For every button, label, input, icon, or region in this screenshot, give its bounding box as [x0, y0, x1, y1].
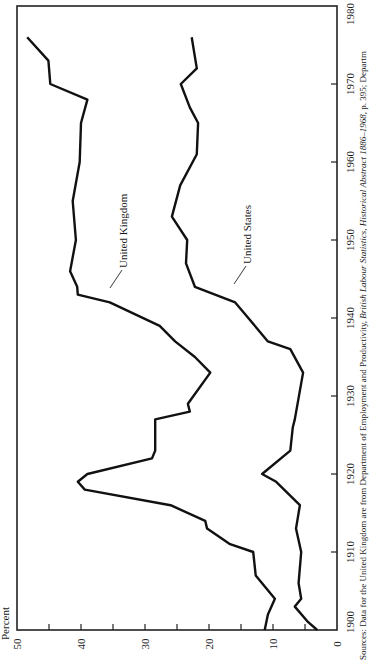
year-tick-label: 1910 — [344, 541, 356, 564]
year-tick-label: 1900 — [344, 611, 356, 634]
svg-text:United Kingdom: United Kingdom — [117, 193, 129, 268]
percent-axis-label: Percent — [0, 607, 11, 640]
year-tick-label: 1980 — [344, 3, 356, 26]
percent-tick-label: 20 — [203, 638, 215, 650]
label-united-states: United States — [234, 205, 253, 284]
plot-frame — [17, 6, 337, 630]
series-line-united-states — [172, 37, 317, 630]
percent-tick-label: 40 — [75, 638, 87, 650]
tick-labels: 5040302010019001910192019301940195019601… — [11, 3, 356, 650]
year-tick-label: 1930 — [344, 385, 356, 408]
series-lines — [27, 37, 317, 630]
year-tick-label: 1950 — [344, 229, 356, 252]
percent-tick-label: 10 — [267, 638, 279, 650]
union-membership-chart: United Kingdom United States Percent 504… — [0, 0, 369, 664]
year-tick-label: 1920 — [344, 463, 356, 486]
percent-tick-label: 0 — [331, 641, 343, 647]
label-united-kingdom: United Kingdom — [110, 193, 129, 288]
percent-tick-label: 30 — [139, 638, 151, 650]
year-tick-label: 1970 — [344, 73, 356, 96]
svg-text:United States: United States — [241, 205, 253, 264]
year-tick-label: 1940 — [344, 307, 356, 330]
percent-tick-label: 50 — [11, 638, 23, 650]
series-line-united-kingdom — [27, 37, 275, 630]
source-note: Sources: Data for the United Kingdom are… — [358, 51, 368, 660]
year-tick-label: 1960 — [344, 151, 356, 174]
